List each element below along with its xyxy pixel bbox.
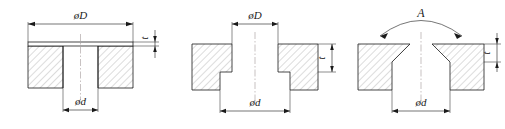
dimension-top-diameter: øD bbox=[232, 9, 278, 26]
dimension-depth: t bbox=[133, 30, 159, 58]
figure-2-counterbore: øD t ød bbox=[170, 0, 340, 129]
label-depth: t bbox=[316, 56, 327, 59]
material-left bbox=[192, 44, 232, 90]
figure-3-countersink: A t ød bbox=[340, 0, 505, 129]
material-right bbox=[432, 44, 484, 90]
label-bottom-diameter: ød bbox=[249, 96, 262, 108]
dimension-bottom-diameter: ød bbox=[220, 96, 290, 113]
dimension-bottom-diameter: ød bbox=[63, 95, 98, 112]
figure-1-spotface: øD t ød bbox=[0, 0, 170, 129]
label-bottom-diameter: ød bbox=[415, 96, 428, 108]
material-left bbox=[28, 46, 63, 88]
label-top-diameter: øD bbox=[247, 9, 262, 21]
label-depth: t bbox=[481, 51, 492, 54]
label-top-diameter: øD bbox=[73, 9, 88, 21]
dimension-bottom-diameter: ød bbox=[392, 96, 450, 113]
label-depth: t bbox=[139, 36, 150, 39]
drawing-sheet: øD t ød bbox=[0, 0, 505, 129]
material-left bbox=[358, 44, 410, 90]
dimension-depth: t bbox=[316, 44, 336, 72]
label-angle: A bbox=[416, 6, 425, 20]
label-bottom-diameter: ød bbox=[74, 95, 87, 107]
material-right bbox=[98, 46, 133, 88]
material-right bbox=[278, 44, 318, 90]
dimension-top-diameter: øD bbox=[28, 9, 133, 26]
